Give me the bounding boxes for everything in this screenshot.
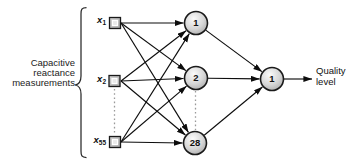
edge-x2-h2 — [121, 79, 184, 82]
x1-sub: 1 — [102, 19, 106, 26]
input-node-x55 — [110, 137, 121, 148]
edges-input-to-hidden — [121, 23, 189, 143]
edge-x1-h3 — [121, 23, 188, 132]
input-node-x2 — [109, 76, 120, 87]
edge-x55-h1 — [121, 34, 189, 142]
input-node-label-x2: x2 — [66, 73, 106, 87]
edge-h1-out — [206, 30, 262, 72]
edges-hidden-to-output — [204, 30, 262, 135]
edge-x1-h2 — [121, 23, 186, 71]
input-group-label-line3: measurements — [0, 78, 75, 88]
hidden-node-28-label: 28 — [190, 137, 201, 148]
output-label-line1: Quality — [316, 66, 360, 77]
output-label-line2: level — [316, 77, 360, 88]
input-group-label: Capacitive reactance measurements — [0, 58, 75, 88]
input-node-x1 — [110, 18, 121, 29]
x55-sub: 55 — [99, 139, 106, 146]
output-label: Quality level — [316, 66, 360, 87]
hidden-node-2-label: 2 — [193, 72, 198, 83]
output-node-label: 1 — [269, 73, 275, 84]
edge-x55-h3 — [121, 142, 183, 143]
edge-h2-out — [208, 78, 260, 79]
ann-diagram: 1 2 28 1 Capacitive reactance measuremen… — [0, 0, 361, 167]
input-node-label-x1: x1 — [66, 14, 106, 28]
x2-sub: 2 — [102, 78, 106, 85]
hidden-node-1-label: 1 — [193, 17, 199, 28]
edge-h3-out — [204, 87, 262, 135]
input-node-label-x55: x55 — [66, 134, 106, 148]
